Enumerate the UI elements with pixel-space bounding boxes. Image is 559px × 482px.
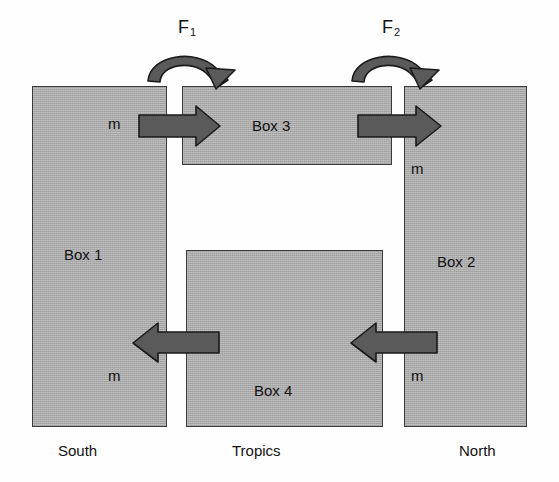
box-3-label: Box 3 [252, 118, 290, 133]
arrow-upper-left-icon [139, 106, 220, 146]
flux-label-f1: F1 [178, 18, 195, 36]
region-label-tropics: Tropics [232, 443, 281, 458]
arrow-upper-right-icon [358, 106, 441, 146]
mass-label-lower-right: m [411, 368, 424, 383]
arrow-curved-f1-icon [148, 56, 235, 89]
region-label-south: South [58, 443, 97, 458]
mass-label-lower-left: m [108, 368, 121, 383]
box-4-label: Box 4 [254, 383, 292, 398]
region-label-north: North [459, 443, 496, 458]
mass-label-upper-right: m [411, 161, 424, 176]
mass-label-upper-left: m [108, 116, 121, 131]
arrow-layer [0, 0, 559, 482]
flux-f1-subscript: 1 [190, 26, 196, 38]
diagram-canvas: F1 F2 Box 1 Box 2 Box 3 Box 4 m m m m So… [0, 0, 559, 482]
arrow-curved-f2-icon [352, 56, 439, 89]
flux-f2-subscript: 2 [394, 26, 400, 38]
box-2-label: Box 2 [437, 254, 475, 269]
flux-f2-symbol: F [382, 17, 393, 37]
flux-label-f2: F2 [382, 18, 399, 36]
box-1-label: Box 1 [64, 247, 102, 262]
arrow-lower-right-icon [351, 323, 437, 362]
arrow-lower-left-icon [133, 323, 219, 362]
flux-f1-symbol: F [178, 17, 189, 37]
